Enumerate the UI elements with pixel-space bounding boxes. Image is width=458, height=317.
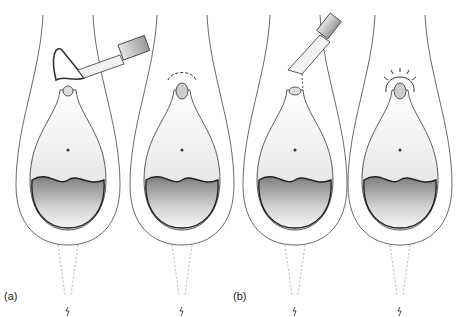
panel-a-instrument-view	[16, 15, 150, 316]
panel-b-label: (b)	[233, 290, 246, 302]
panel-b-sutured-view	[348, 15, 452, 316]
panel-a-label: (a)	[4, 290, 17, 302]
illustration	[0, 0, 458, 317]
panel-b-instrument-view	[243, 13, 347, 316]
panel-a-sutured-view	[130, 15, 234, 316]
